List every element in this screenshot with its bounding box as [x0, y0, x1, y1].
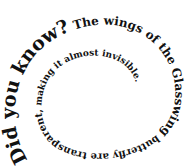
segment-invisible: making it almost invisible. [33, 47, 143, 109]
segment-wings: The wings of the Glasswing [67, 13, 185, 140]
spiral-svg: Did you know? The wings of the Glasswing… [0, 0, 185, 168]
spiral-text-graphic: Did you know? The wings of the Glasswing… [0, 0, 185, 168]
segment-butterfly: butterfly are transparent, [32, 109, 165, 163]
spiral-text: Did you know? The wings of the Glasswing… [0, 13, 185, 168]
